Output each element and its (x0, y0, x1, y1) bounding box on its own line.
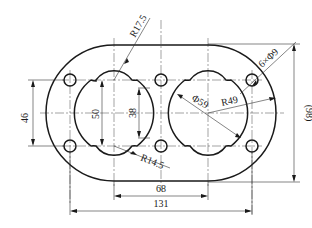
svg-text:R49: R49 (220, 94, 239, 108)
svg-text:38: 38 (127, 108, 138, 118)
svg-text:R14.5: R14.5 (139, 152, 166, 171)
svg-text:Φ59: Φ59 (190, 92, 210, 110)
dim-50: 50 (90, 80, 104, 146)
svg-text:6×Φ9: 6×Φ9 (256, 46, 280, 70)
dim-hole-callout: 6×Φ9 (240, 42, 296, 94)
svg-text:68: 68 (156, 183, 166, 194)
svg-text:50: 50 (90, 109, 101, 119)
engineering-drawing: 46 50 38 R17.5 R14.5 Φ59 R49 (0, 0, 312, 228)
svg-text:46: 46 (19, 113, 30, 123)
dim-r49: R49 (208, 94, 276, 113)
dim-r17-5: R17.5 (114, 13, 150, 80)
svg-text:(98): (98) (303, 105, 312, 122)
dim-r14-5: R14.5 (114, 146, 170, 171)
svg-text:131: 131 (154, 198, 169, 209)
